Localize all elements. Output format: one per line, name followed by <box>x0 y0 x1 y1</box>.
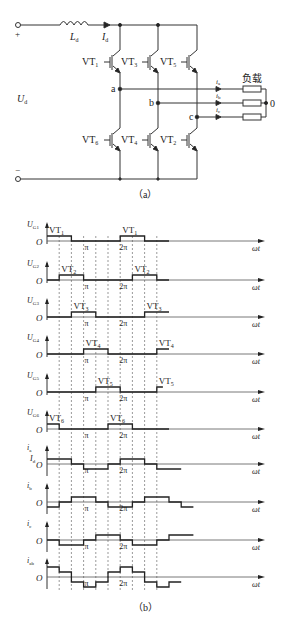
node-label-a: a <box>111 83 116 94</box>
neutral-label: 0 <box>270 98 275 109</box>
axis-arrow-icon <box>258 500 265 504</box>
two-pi-tick-label: 2π <box>119 504 127 513</box>
axis-arrow-icon <box>45 373 49 379</box>
y-axis-label: UG2 <box>27 259 39 269</box>
switch-label-vt2: VT2 <box>160 134 176 146</box>
switch-label-vt5: VT5 <box>160 56 176 68</box>
dc-current-label: Id <box>101 31 108 43</box>
axis-arrow-icon <box>258 538 265 542</box>
plus-label: + <box>15 29 20 39</box>
waveform-chart: ωtOUG1π2πVT1VT1ωtOUG2π2πVT2VT2ωtOUG3π2πV… <box>27 220 265 590</box>
node-label-c: c <box>189 111 194 122</box>
pulse-label: VT1 <box>122 225 137 236</box>
y-axis-label: ic <box>27 519 32 529</box>
minus-label: − <box>15 165 20 175</box>
inductor-label: Ld <box>69 31 79 43</box>
pulse-label: VT4 <box>159 338 174 349</box>
y-axis-label: UG5 <box>27 371 39 381</box>
y-axis-label: UG6 <box>27 408 39 418</box>
pulse-label: VT5 <box>98 376 113 387</box>
inverter-figure: + − Ld Id Ud VT1 VT3 VT5 VT6 VT4 VT2 a b… <box>0 0 287 624</box>
pulse-label: VT2 <box>61 264 76 275</box>
phase-current-b: ib <box>216 92 221 100</box>
axis-arrow-icon <box>45 558 49 564</box>
y-axis-label: ia <box>27 443 32 453</box>
pulse-label: VT2 <box>134 264 149 275</box>
waveform-trace <box>47 387 163 392</box>
x-axis-label: ωt <box>252 395 261 404</box>
axis-arrow-icon <box>258 575 265 579</box>
x-axis-label: ωt <box>252 244 261 253</box>
origin-label: O <box>36 276 43 286</box>
pulse-label: VT6 <box>49 413 64 424</box>
two-pi-tick-label: 2π <box>119 394 127 403</box>
y-axis-label: UG3 <box>27 296 39 306</box>
series-i-c: ωtOicπ2π <box>27 519 265 552</box>
origin-label: O <box>36 388 43 398</box>
resistor-icon <box>243 100 261 106</box>
axis-arrow-icon <box>258 462 265 466</box>
caption-a: （a） <box>133 189 157 200</box>
axis-arrow-icon <box>45 261 49 267</box>
y-axis-label: UG4 <box>27 333 39 343</box>
load-label: 负载 <box>242 72 262 84</box>
origin-label: O <box>36 313 43 323</box>
series-i-b: ωtOibπ2π <box>27 481 265 514</box>
resistor-icon <box>243 114 261 120</box>
axis-arrow-icon <box>45 521 49 527</box>
two-pi-tick-label: 2π <box>119 542 127 551</box>
resistor-icon <box>243 86 261 92</box>
axis-arrow-icon <box>45 335 49 341</box>
pi-tick-label: π <box>85 356 89 365</box>
series-u-g1: ωtOUG1π2πVT1VT1 <box>27 220 265 253</box>
y-axis-label: UG1 <box>27 220 39 230</box>
pulse-label: VT6 <box>110 413 125 424</box>
axis-arrow-icon <box>258 352 265 356</box>
axis-arrow-icon <box>258 239 265 243</box>
series-u-g6: ωtOUG6π2πVT6VT6 <box>27 408 265 441</box>
negative-terminal <box>16 177 21 182</box>
x-axis-label: ωt <box>252 543 261 552</box>
dc-voltage-label: Ud <box>17 93 27 105</box>
axis-arrow-icon <box>258 315 265 319</box>
pi-tick-label: π <box>85 504 89 513</box>
pulse-label: VT5 <box>159 376 174 387</box>
leg-a <box>104 25 120 179</box>
two-pi-tick-label: 2π <box>119 356 127 365</box>
switch-label-vt1: VT1 <box>82 56 98 68</box>
series-u-g3: ωtOUG3π2πVT3VT3 <box>27 296 265 329</box>
pi-tick-label: π <box>85 243 89 252</box>
origin-label: O <box>36 237 43 247</box>
origin-label: O <box>36 573 43 583</box>
axis-arrow-icon <box>258 427 265 431</box>
pulse-label: VT3 <box>147 301 162 312</box>
circuit-diagram <box>16 22 268 182</box>
x-axis-label: ωt <box>252 505 261 514</box>
switch-label-vt3: VT3 <box>121 56 137 68</box>
node-a <box>118 87 122 91</box>
y-axis-label: iab <box>27 556 34 566</box>
pi-tick-label: π <box>85 282 89 291</box>
waveform-trace <box>47 424 169 429</box>
origin-label: O <box>36 425 43 435</box>
x-axis-label: ωt <box>252 283 261 292</box>
axis-arrow-icon <box>45 483 49 489</box>
two-pi-tick-label: 2π <box>119 466 127 475</box>
x-axis-label: ωt <box>252 320 261 329</box>
inductor-icon <box>60 22 88 26</box>
axis-arrow-icon <box>45 298 49 304</box>
series-u-g2: ωtOUG2π2πVT2VT2 <box>27 259 265 292</box>
origin-label: O <box>36 350 43 360</box>
node-label-b: b <box>149 97 154 108</box>
two-pi-tick-label: 2π <box>119 431 127 440</box>
pi-tick-label: π <box>85 319 89 328</box>
caption-b: （b） <box>133 602 158 613</box>
pi-tick-label: π <box>85 466 89 475</box>
node-b <box>156 101 160 105</box>
origin-label: O <box>36 536 43 546</box>
series-i-ab: ωtOiabπ2π <box>27 556 265 589</box>
pi-tick-label: π <box>85 431 89 440</box>
pi-tick-label: π <box>85 542 89 551</box>
axis-arrow-icon <box>258 278 265 282</box>
waveform-trace <box>47 349 169 354</box>
